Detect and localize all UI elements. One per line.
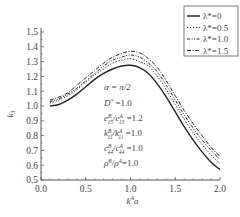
x-tick-label: 1.0 [125,184,137,194]
legend-label: λ*=0.5 [203,23,229,33]
y-tick-label: 1.3 [26,57,38,67]
annotation-alpha: α = π/2 [104,82,131,92]
y-tick-label: 0.6 [26,161,38,171]
y-tick-label: 1.5 [26,27,38,37]
annotation-line: kB11/kA11 =1.0 [104,128,143,140]
x-axis-label: kAa [126,195,139,206]
legend-label: λ*=1.5 [203,46,229,56]
y-axis-label: k3 [5,111,16,118]
y-tick-label: 1.2 [26,72,38,82]
line-chart: 0.00.51.01.52.00.50.60.70.80.91.01.11.21… [0,0,240,217]
y-tick-label: 0.8 [26,131,38,141]
y-tick-label: 1.4 [26,42,38,52]
y-tick-label: 0.7 [26,146,38,156]
y-tick-label: 1.0 [26,101,38,111]
y-tick-label: 0.5 [26,175,38,185]
x-tick-label: 1.5 [169,184,181,194]
annotation-D: D* =1.0 [103,98,132,109]
y-tick-label: 0.9 [26,116,38,126]
legend-label: λ*=1.0 [203,34,229,44]
annotation-rho: ρB/ρA=1.0 [103,158,139,169]
parameter-annotations: α = π/2D* =1.0eB15/eA13 =1.2kB11/kA11 =1… [103,82,143,168]
annotation-line: eB15/eA13 =1.2 [104,113,143,125]
x-tick-label: 0.5 [80,184,92,194]
y-tick-label: 1.1 [26,87,38,97]
legend: λ*=0λ*=0.5λ*=1.0λ*=1.5 [184,6,238,56]
x-tick-label: 0.0 [35,184,47,194]
annotation-line: cB44/cA44 =1.0 [104,143,143,155]
x-tick-label: 2.0 [214,184,226,194]
legend-label: λ*=0 [203,11,222,21]
series-line-3 [50,51,220,156]
